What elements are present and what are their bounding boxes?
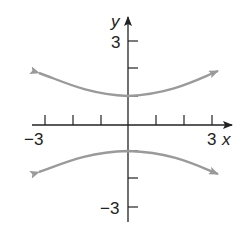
x-min-label: −3 [24, 130, 43, 149]
hyperbola-graph: y 3 −3 −3 3 x [0, 0, 250, 232]
y-max-label: 3 [111, 33, 120, 52]
y-min-label: −3 [100, 199, 119, 218]
x-axis-label: x [221, 130, 231, 149]
x-max-label: 3 [207, 130, 216, 149]
y-ticks [128, 41, 138, 207]
y-axis-label: y [110, 12, 121, 31]
